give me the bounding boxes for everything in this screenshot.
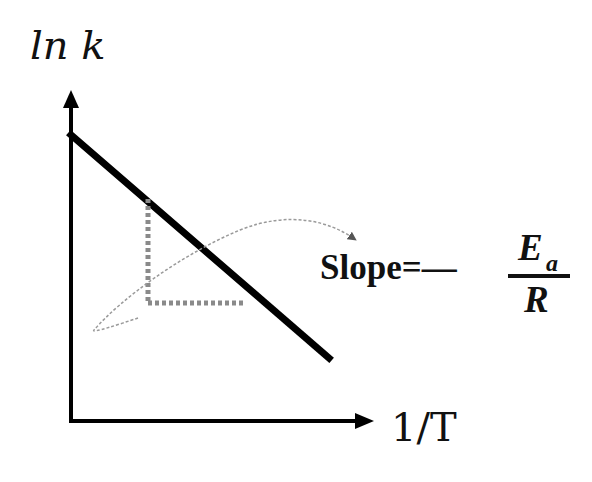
fraction-denominator: R bbox=[524, 278, 549, 321]
slope-label: Slope=— bbox=[320, 248, 457, 288]
curved-annotation-arrow bbox=[94, 220, 353, 331]
regression-line bbox=[71, 135, 329, 358]
fraction-numerator: E bbox=[518, 226, 543, 269]
x-axis bbox=[69, 413, 374, 429]
y-axis-arrow-icon bbox=[63, 90, 79, 108]
plot-area bbox=[0, 0, 592, 482]
arrhenius-diagram: ln k Slope=— E bbox=[0, 0, 592, 482]
x-axis-arrow-icon bbox=[355, 413, 374, 429]
slope-fraction: E a R bbox=[508, 226, 568, 336]
fraction-subscript: a bbox=[546, 250, 558, 277]
x-axis-label: 1/T bbox=[391, 404, 457, 450]
